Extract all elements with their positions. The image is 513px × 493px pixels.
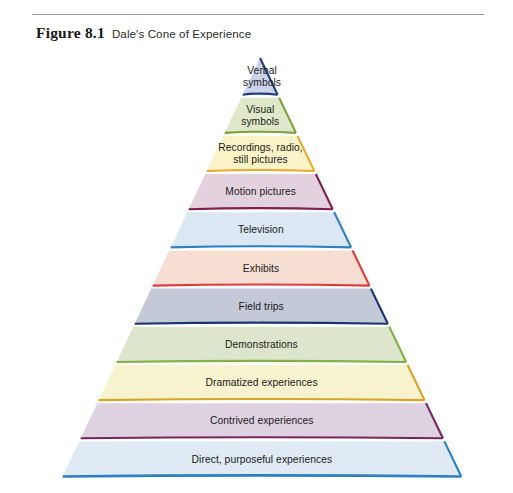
cone-band-label-contrived-experiences: Contrived experiences: [210, 415, 314, 426]
cone-band-accent-verbal-symbols: [243, 94, 278, 95]
cone-band-accent-motion-pictures: [189, 208, 333, 209]
cone-band-label-field-trips: Field trips: [239, 301, 284, 312]
cone-band-label-dramatized-experiences: Dramatized experiences: [205, 377, 317, 388]
cone-bands-group: VerbalsymbolsVisualsymbolsRecordings, ra…: [63, 58, 462, 477]
cone-band-accent-field-trips: [135, 323, 388, 324]
cone-band-accent-demonstrations: [117, 361, 406, 362]
cone-band-label-motion-pictures: Motion pictures: [225, 186, 296, 197]
cone-band-label-visual-symbols: Visualsymbols: [241, 104, 279, 127]
cone-band-accent-recordings-radio-still-pictures: [207, 170, 315, 171]
cone-of-experience-diagram: VerbalsymbolsVisualsymbolsRecordings, ra…: [0, 0, 513, 493]
cone-band-label-demonstrations: Demonstrations: [225, 339, 298, 350]
cone-band-accent-television: [171, 246, 351, 247]
cone-band-accent-exhibits: [153, 284, 370, 285]
cone-band-accent-contrived-experiences: [81, 437, 443, 438]
figure-container: Figure 8.1Dale's Cone of Experience Verb…: [0, 0, 513, 493]
cone-band-label-exhibits: Exhibits: [243, 263, 279, 274]
cone-band-accent-dramatized-experiences: [99, 399, 425, 400]
cone-band-label-verbal-symbols: Verbalsymbols: [243, 65, 281, 88]
cone-band-accent-visual-symbols: [225, 132, 296, 133]
cone-band-accent-direct-purposeful-experiences: [63, 475, 462, 476]
cone-band-label-direct-purposeful-experiences: Direct, purposeful experiences: [192, 454, 333, 465]
cone-band-label-television: Television: [238, 224, 284, 235]
